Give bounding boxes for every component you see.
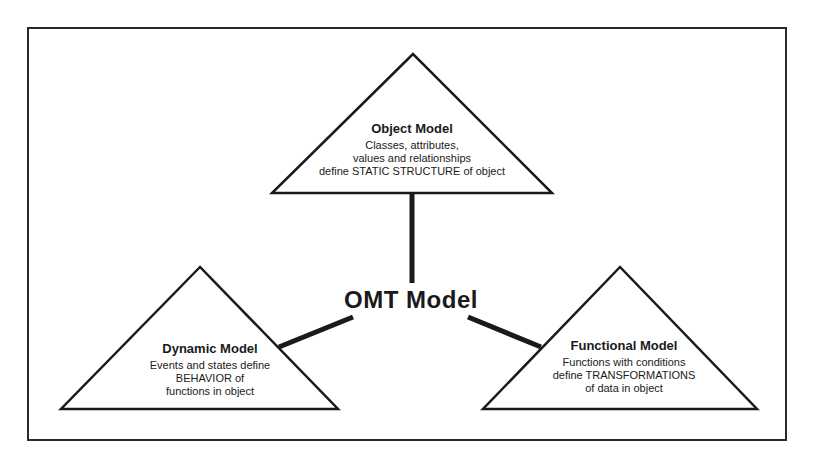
- dynamic-model-label: Dynamic Model Events and states define B…: [150, 341, 270, 398]
- object-model-desc-1: Classes, attributes,: [319, 139, 505, 152]
- connector-dynamic: [279, 317, 353, 347]
- object-model-desc-3: define STATIC STRUCTURE of object: [319, 165, 505, 178]
- object-model-title: Object Model: [319, 121, 505, 137]
- functional-model-desc-2: define TRANSFORMATIONS: [553, 369, 696, 382]
- functional-model-label: Functional Model Functions with conditio…: [553, 338, 696, 395]
- dynamic-model-desc-1: Events and states define: [150, 359, 270, 372]
- omt-model-title: OMT Model: [344, 286, 478, 314]
- dynamic-model-desc-3: functions in object: [150, 385, 270, 398]
- object-model-desc-2: values and relationships: [319, 152, 505, 165]
- dynamic-model-desc-2: BEHAVIOR of: [150, 372, 270, 385]
- object-model-label: Object Model Classes, attributes, values…: [319, 121, 505, 178]
- diagram-shapes: [0, 0, 821, 461]
- dynamic-model-title: Dynamic Model: [150, 341, 270, 357]
- connector-functional: [468, 317, 541, 347]
- functional-model-desc-3: of data in object: [553, 382, 696, 395]
- functional-model-title: Functional Model: [553, 338, 696, 354]
- functional-model-desc-1: Functions with conditions: [553, 356, 696, 369]
